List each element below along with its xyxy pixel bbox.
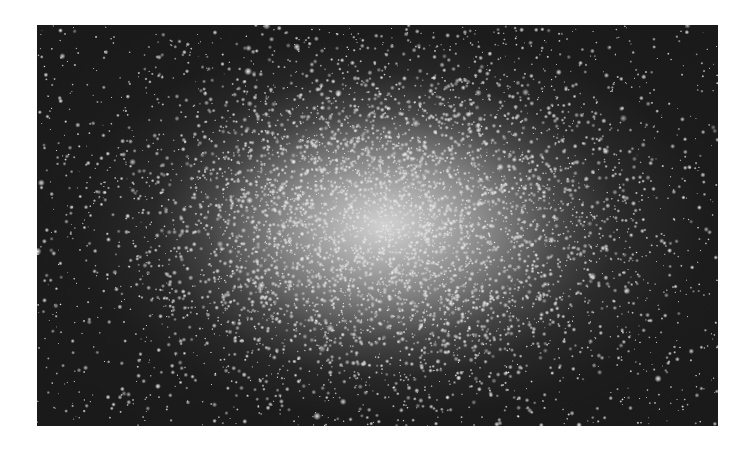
star-field	[37, 25, 718, 426]
star-cluster-photo	[37, 25, 718, 426]
